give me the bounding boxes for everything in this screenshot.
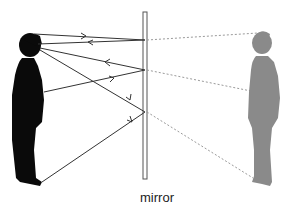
person-silhouette	[12, 33, 44, 186]
arrow-icon	[127, 116, 132, 122]
reflected-image-silhouette	[248, 31, 280, 186]
mirror	[143, 12, 147, 179]
virtual-rays	[147, 33, 258, 178]
ray-chest-to-mirror	[44, 70, 145, 92]
ray-head-to-mirror	[34, 34, 145, 40]
mirror-reflection-diagram	[0, 0, 291, 217]
ray-feet-to-mirror	[42, 112, 145, 182]
arrow-icon	[81, 33, 86, 39]
mirror-label: mirror	[127, 190, 187, 205]
light-rays	[34, 33, 145, 182]
arrow-icon	[126, 94, 131, 100]
